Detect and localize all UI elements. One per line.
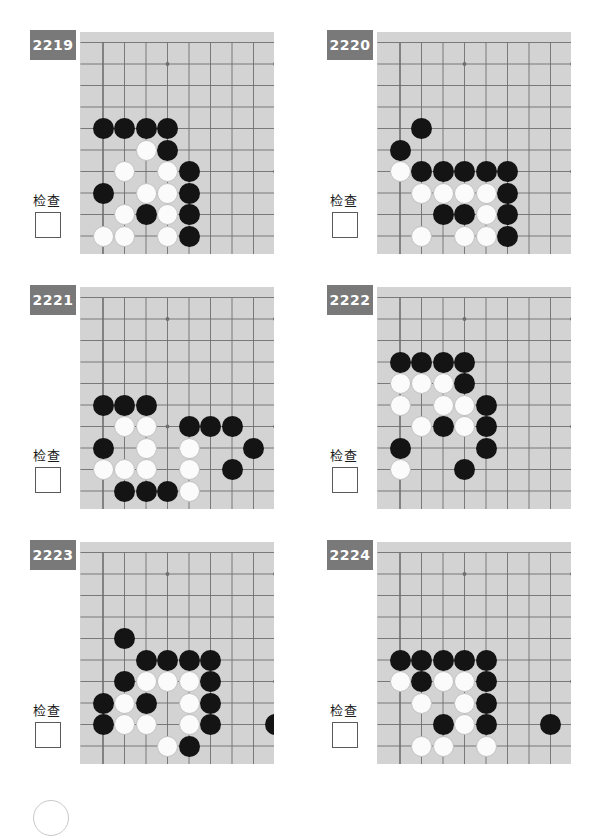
white-stone[interactable]: [454, 395, 475, 416]
white-stone[interactable]: [179, 438, 200, 459]
white-stone[interactable]: [411, 373, 432, 394]
white-stone[interactable]: [179, 693, 200, 714]
white-stone[interactable]: [390, 395, 411, 416]
white-stone[interactable]: [93, 459, 114, 480]
black-stone[interactable]: [136, 650, 157, 671]
black-stone[interactable]: [114, 481, 135, 502]
black-stone[interactable]: [476, 714, 497, 735]
white-stone[interactable]: [157, 183, 178, 204]
white-stone[interactable]: [454, 416, 475, 437]
black-stone[interactable]: [200, 416, 221, 437]
white-stone[interactable]: [476, 736, 497, 757]
black-stone[interactable]: [179, 736, 200, 757]
white-stone[interactable]: [454, 671, 475, 692]
go-board[interactable]: [80, 32, 274, 254]
black-stone[interactable]: [390, 438, 411, 459]
black-stone[interactable]: [476, 693, 497, 714]
white-stone[interactable]: [433, 395, 454, 416]
white-stone[interactable]: [476, 226, 497, 247]
black-stone[interactable]: [179, 204, 200, 225]
black-stone[interactable]: [476, 395, 497, 416]
black-stone[interactable]: [390, 650, 411, 671]
black-stone[interactable]: [454, 204, 475, 225]
white-stone[interactable]: [157, 204, 178, 225]
black-stone[interactable]: [390, 352, 411, 373]
white-stone[interactable]: [390, 373, 411, 394]
black-stone[interactable]: [136, 204, 157, 225]
black-stone[interactable]: [433, 714, 454, 735]
white-stone[interactable]: [433, 736, 454, 757]
black-stone[interactable]: [200, 714, 221, 735]
black-stone[interactable]: [157, 650, 178, 671]
check-checkbox[interactable]: [332, 467, 358, 493]
black-stone[interactable]: [93, 714, 114, 735]
black-stone[interactable]: [476, 438, 497, 459]
white-stone[interactable]: [114, 459, 135, 480]
black-stone[interactable]: [476, 416, 497, 437]
black-stone[interactable]: [454, 459, 475, 480]
white-stone[interactable]: [136, 416, 157, 437]
white-stone[interactable]: [114, 416, 135, 437]
white-stone[interactable]: [411, 736, 432, 757]
black-stone[interactable]: [136, 481, 157, 502]
white-stone[interactable]: [390, 671, 411, 692]
black-stone[interactable]: [497, 183, 518, 204]
check-checkbox[interactable]: [332, 722, 358, 748]
white-stone[interactable]: [390, 161, 411, 182]
go-board[interactable]: [377, 287, 571, 509]
black-stone[interactable]: [200, 693, 221, 714]
white-stone[interactable]: [136, 140, 157, 161]
black-stone[interactable]: [497, 161, 518, 182]
white-stone[interactable]: [157, 736, 178, 757]
black-stone[interactable]: [179, 161, 200, 182]
white-stone[interactable]: [136, 671, 157, 692]
white-stone[interactable]: [454, 714, 475, 735]
black-stone[interactable]: [411, 352, 432, 373]
white-stone[interactable]: [157, 226, 178, 247]
black-stone[interactable]: [243, 438, 264, 459]
black-stone[interactable]: [136, 693, 157, 714]
black-stone[interactable]: [540, 714, 561, 735]
white-stone[interactable]: [433, 183, 454, 204]
black-stone[interactable]: [136, 395, 157, 416]
black-stone[interactable]: [93, 693, 114, 714]
black-stone[interactable]: [411, 671, 432, 692]
white-stone[interactable]: [114, 204, 135, 225]
white-stone[interactable]: [114, 714, 135, 735]
black-stone[interactable]: [411, 118, 432, 139]
black-stone[interactable]: [476, 671, 497, 692]
white-stone[interactable]: [114, 693, 135, 714]
black-stone[interactable]: [454, 650, 475, 671]
black-stone[interactable]: [157, 140, 178, 161]
black-stone[interactable]: [114, 671, 135, 692]
go-board[interactable]: [80, 287, 274, 509]
white-stone[interactable]: [179, 481, 200, 502]
white-stone[interactable]: [179, 714, 200, 735]
white-stone[interactable]: [390, 459, 411, 480]
white-stone[interactable]: [114, 161, 135, 182]
black-stone[interactable]: [222, 416, 243, 437]
black-stone[interactable]: [179, 183, 200, 204]
check-checkbox[interactable]: [35, 467, 61, 493]
black-stone[interactable]: [411, 161, 432, 182]
black-stone[interactable]: [476, 161, 497, 182]
go-board[interactable]: [377, 32, 571, 254]
white-stone[interactable]: [114, 226, 135, 247]
black-stone[interactable]: [114, 395, 135, 416]
check-checkbox[interactable]: [35, 212, 61, 238]
black-stone[interactable]: [433, 416, 454, 437]
black-stone[interactable]: [136, 118, 157, 139]
white-stone[interactable]: [93, 226, 114, 247]
black-stone[interactable]: [454, 161, 475, 182]
white-stone[interactable]: [136, 438, 157, 459]
white-stone[interactable]: [411, 416, 432, 437]
go-board[interactable]: [80, 542, 274, 764]
black-stone[interactable]: [454, 373, 475, 394]
black-stone[interactable]: [222, 459, 243, 480]
black-stone[interactable]: [200, 671, 221, 692]
white-stone[interactable]: [454, 183, 475, 204]
black-stone[interactable]: [93, 183, 114, 204]
black-stone[interactable]: [179, 226, 200, 247]
white-stone[interactable]: [454, 226, 475, 247]
white-stone[interactable]: [476, 183, 497, 204]
